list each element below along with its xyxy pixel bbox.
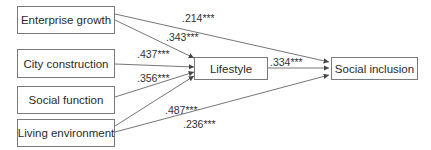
coef-lifestyle-inclusion: .334*** (270, 56, 303, 68)
node-city-construction: City construction (17, 49, 115, 78)
node-label: Social inclusion (335, 63, 414, 75)
node-living-environment: Living environment (17, 119, 115, 147)
node-social-inclusion: Social inclusion (331, 57, 418, 80)
path-diagram: Enterprise growth City construction Soci… (0, 0, 431, 150)
node-label: Living environment (18, 127, 115, 139)
coef-city-lifestyle: .437*** (137, 48, 170, 60)
coef-living-inclusion: .236*** (183, 118, 216, 130)
node-lifestyle: Lifestyle (194, 57, 268, 80)
node-label: Lifestyle (210, 63, 252, 75)
coef-living-lifestyle: .487*** (165, 104, 198, 116)
node-social-function: Social function (17, 86, 115, 114)
coef-enterprise-lifestyle: .343*** (166, 31, 199, 43)
coef-enterprise-inclusion: .214*** (182, 12, 215, 24)
coef-social-lifestyle: .356*** (137, 72, 170, 84)
node-label: Social function (29, 94, 104, 106)
node-label: Enterprise growth (21, 14, 111, 26)
node-enterprise-growth: Enterprise growth (17, 6, 115, 34)
node-label: City construction (23, 58, 108, 70)
arrow-city-lifestyle (115, 64, 194, 67)
